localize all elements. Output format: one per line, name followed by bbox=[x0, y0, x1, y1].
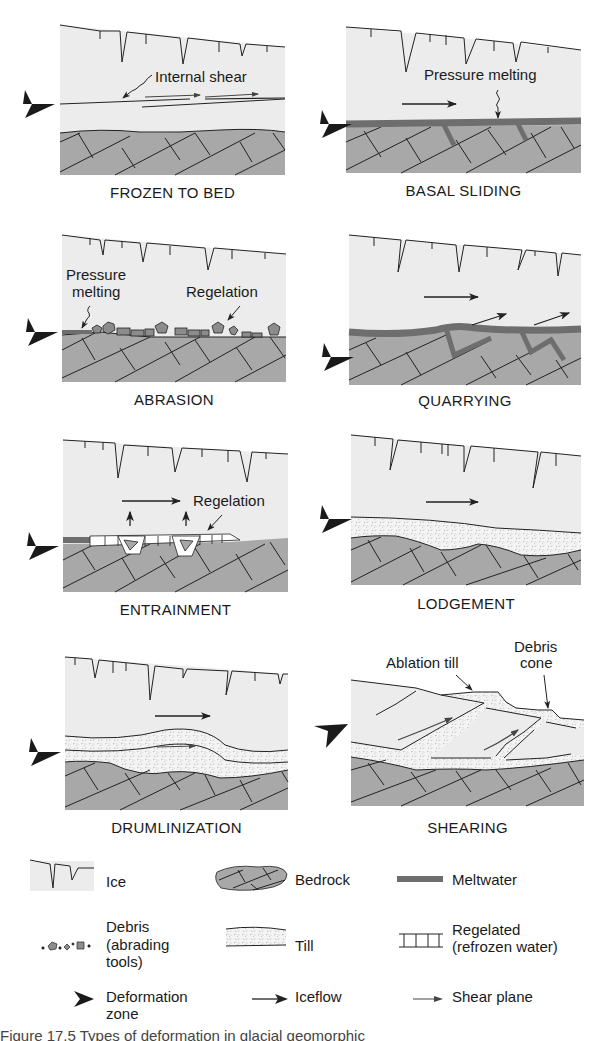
legend-label-meltwater: Meltwater bbox=[452, 871, 517, 888]
panel-drumlinization: DRUMLINIZATION bbox=[0, 630, 306, 830]
label-pressure-melting: Pressure melting bbox=[424, 67, 537, 83]
legend-label-debris-3: tools) bbox=[106, 953, 143, 970]
panel-basal-sliding: Pressure melting BASAL SLIDING bbox=[306, 0, 612, 210]
legend-label-deformation-2: zone bbox=[106, 1005, 139, 1022]
regelated-icon bbox=[398, 932, 444, 950]
label-pressure: Pressure bbox=[66, 267, 126, 283]
deformation-zone-icon bbox=[26, 318, 58, 346]
legend-label-iceflow: Iceflow bbox=[295, 988, 342, 1005]
legend-label-debris-1: Debris bbox=[106, 918, 149, 935]
quarrying-diagram bbox=[306, 210, 612, 420]
legend-label-regelated-2: (refrozen water) bbox=[452, 938, 558, 955]
drumlinization-diagram bbox=[0, 630, 306, 830]
deformation-zone-icon bbox=[27, 532, 59, 560]
shearing-diagram bbox=[306, 630, 612, 830]
panel-abrasion: Pressure melting Regelation ABRASION bbox=[0, 210, 306, 420]
deformation-zone-icon bbox=[314, 724, 348, 748]
panel-frozen-to-bed: Internal shear FROZEN TO BED bbox=[0, 0, 306, 210]
legend-label-till: Till bbox=[295, 937, 314, 954]
panel-title: FROZEN TO BED bbox=[60, 184, 285, 201]
panel-shearing: Ablation till Debris cone SHEARING bbox=[306, 630, 612, 830]
panel-title: LODGEMENT bbox=[351, 595, 581, 612]
label-ablation-till: Ablation till bbox=[386, 655, 459, 671]
ice-icon bbox=[30, 858, 96, 894]
legend-label-deformation-1: Deformation bbox=[106, 988, 188, 1005]
figure-caption-partial: Figure 17.5 Types of deformation in glac… bbox=[0, 1027, 612, 1041]
label-cone: cone bbox=[520, 655, 553, 671]
abrasion-diagram bbox=[0, 210, 306, 420]
panel-title: ABRASION bbox=[62, 391, 286, 408]
panel-title: SHEARING bbox=[351, 819, 584, 836]
label-debris: Debris bbox=[514, 639, 557, 655]
panel-quarrying: QUARRYING bbox=[306, 210, 612, 420]
legend-label-regelated-1: Regelated bbox=[452, 921, 520, 938]
panel-entrainment: Regelation ENTRAINMENT bbox=[0, 420, 306, 630]
entrainment-diagram bbox=[0, 420, 306, 630]
basal-sliding-diagram bbox=[306, 0, 612, 210]
shear-plane-arrow-icon bbox=[412, 994, 444, 1004]
panel-title: ENTRAINMENT bbox=[63, 601, 288, 618]
iceflow-arrow-icon bbox=[251, 993, 289, 1005]
deformation-zone-icon bbox=[23, 90, 55, 118]
deformation-zone-icon bbox=[320, 505, 352, 533]
panel-title: QUARRYING bbox=[349, 392, 581, 409]
label-melting: melting bbox=[72, 284, 120, 300]
label-regelation: Regelation bbox=[186, 284, 258, 300]
meltwater-icon bbox=[396, 874, 444, 884]
frozen-to-bed-diagram bbox=[0, 0, 306, 210]
label-internal-shear: Internal shear bbox=[155, 69, 247, 85]
deformation-zone-icon bbox=[29, 738, 61, 766]
panel-title: BASAL SLIDING bbox=[346, 182, 581, 199]
debris-icon bbox=[40, 938, 98, 954]
panel-title: DRUMLINIZATION bbox=[65, 819, 288, 836]
panel-lodgement: LODGEMENT bbox=[306, 420, 612, 630]
legend-label-debris-2: (abrading bbox=[106, 936, 169, 953]
legend-label-shear-plane: Shear plane bbox=[452, 988, 533, 1005]
legend-label-ice: Ice bbox=[106, 873, 126, 890]
label-regelation: Regelation bbox=[193, 493, 265, 509]
till-icon bbox=[225, 925, 287, 949]
legend-label-bedrock: Bedrock bbox=[295, 871, 350, 888]
deformation-zone-icon bbox=[74, 991, 96, 1007]
bedrock-icon bbox=[213, 862, 289, 892]
